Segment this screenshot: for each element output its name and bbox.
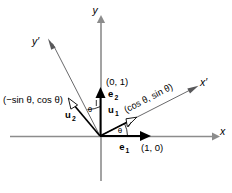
x-axis-label: x (219, 125, 226, 137)
y-axis-arrowhead (97, 15, 105, 23)
e1-label-group: e 1 (119, 141, 129, 154)
e2-label: e (108, 88, 113, 99)
theta-label-lower: θ (118, 126, 123, 135)
vector-e2 (96, 87, 106, 136)
u1-shaft (100, 122, 128, 136)
x-axis-arrowhead (212, 132, 220, 140)
y-prime-axis-label: y′ (31, 35, 40, 47)
x-prime-arrowhead (187, 86, 198, 94)
x-prime-axis-label: x′ (199, 76, 208, 88)
y-prime-arrowhead (48, 39, 56, 50)
u2-label: u (65, 109, 71, 120)
y-prime-axis-line (53, 44, 101, 137)
e2-label-group: e 2 (108, 88, 119, 101)
e1-label: e (119, 141, 124, 152)
theta-label-upper: θ (88, 105, 93, 114)
e1-coordinate-label: (1, 0) (141, 142, 163, 153)
figure-canvas: x y x′ y′ e 1 (1, 0) e 2 (0, 1) u 1 u 2 … (0, 0, 232, 193)
u2-coordinate-label: (−sin θ, cos θ) (3, 94, 63, 105)
u1-coordinate-label: (cos θ, sin θ) (122, 82, 174, 115)
u1-label-group: u 1 (108, 104, 119, 117)
e2-arrowhead (96, 87, 106, 98)
u1-arrowhead (126, 117, 137, 126)
rotation-diagram: x y x′ y′ e 1 (1, 0) e 2 (0, 1) u 1 u 2 … (0, 0, 232, 193)
e2-label-subscript: 2 (115, 94, 119, 101)
u2-label-group: u 2 (65, 109, 76, 122)
u2-label-subscript: 2 (72, 115, 76, 122)
e1-arrowhead (140, 131, 151, 141)
y-axis-label: y (91, 4, 98, 16)
u1-label: u (108, 104, 114, 115)
u1-label-subscript: 1 (115, 110, 119, 117)
e2-coordinate-label: (0, 1) (106, 76, 128, 87)
e1-label-subscript: 1 (126, 147, 130, 154)
